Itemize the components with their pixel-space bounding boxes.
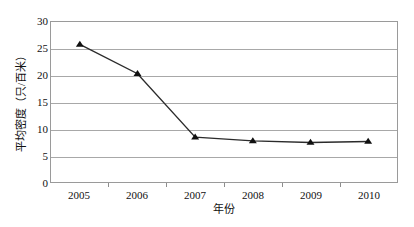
x-axis-tick-label: 2006	[108, 188, 166, 202]
x-axis-tick-mark	[166, 183, 167, 187]
line-chart-figure: 平均密度（只/百米） 051015202530 2005200620072008…	[0, 0, 414, 227]
x-axis-tick-mark	[108, 183, 109, 187]
y-axis-tick-label: 25	[26, 43, 48, 54]
data-point-marker	[76, 41, 84, 47]
x-axis-tick-label: 2010	[340, 188, 398, 202]
x-axis-tick-label: 2005	[50, 188, 108, 202]
x-axis-tick-mark	[282, 183, 283, 187]
y-axis-tick-label: 30	[26, 16, 48, 27]
series-line	[80, 44, 368, 142]
y-axis-title-label: 平均密度（只/百米）	[16, 50, 27, 152]
plot-area	[50, 21, 398, 183]
data-series-svg	[51, 22, 397, 182]
x-axis-tick-marks	[50, 183, 398, 187]
x-axis-tick-mark	[224, 183, 225, 187]
y-axis-tick-label: 0	[26, 178, 48, 189]
y-axis-tick-labels: 051015202530	[26, 21, 48, 183]
x-axis-tick-label: 2007	[166, 188, 224, 202]
data-point-marker	[364, 138, 372, 144]
y-axis-tick-label: 10	[26, 124, 48, 135]
x-axis-title: 年份	[50, 202, 398, 216]
y-axis-tick-label: 15	[26, 97, 48, 108]
x-axis-tick-mark	[340, 183, 341, 187]
y-axis-tick-label: 20	[26, 70, 48, 81]
y-axis-tick-label: 5	[26, 151, 48, 162]
x-axis-tick-label: 2008	[224, 188, 282, 202]
x-axis-tick-label: 2009	[282, 188, 340, 202]
